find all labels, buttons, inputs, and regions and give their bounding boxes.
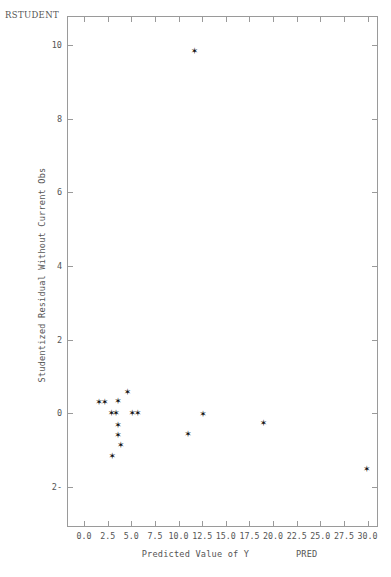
y-axis-tick-right xyxy=(372,266,378,267)
x-axis-tick-top xyxy=(202,16,203,22)
y-axis-tick-left xyxy=(67,192,73,193)
x-axis-tick-bottom xyxy=(226,521,227,527)
x-axis-tick-label: 20.0 xyxy=(263,531,283,541)
y-axis-tick-right xyxy=(372,119,378,120)
x-axis-tick-top xyxy=(108,16,109,22)
x-axis-tick-top xyxy=(155,16,156,22)
y-axis-tick-right xyxy=(372,413,378,414)
data-point-marker: ✶ xyxy=(199,409,207,418)
x-axis-tick-bottom xyxy=(155,521,156,527)
data-point-marker: ✶ xyxy=(114,421,122,430)
x-axis-tick-label: 2.5 xyxy=(100,531,115,541)
x-axis-tick-top xyxy=(84,16,85,22)
data-point-marker: ✶ xyxy=(114,396,122,405)
x-axis-tick-top xyxy=(131,16,132,22)
y-axis-tick-right xyxy=(372,340,378,341)
y-axis-tick-left xyxy=(67,413,73,414)
x-axis-variable-label: PRED xyxy=(296,549,318,559)
x-axis-tick-label: 27.5 xyxy=(334,531,354,541)
x-axis-tick-label: 7.5 xyxy=(147,531,162,541)
x-axis-tick-bottom xyxy=(368,521,369,527)
y-axis-tick-left xyxy=(67,119,73,120)
x-axis-tick-label: 5.0 xyxy=(124,531,139,541)
data-point-marker: ✶ xyxy=(124,387,132,396)
y-axis-tick-left xyxy=(67,487,73,488)
data-point-marker: ✶ xyxy=(109,452,117,461)
x-axis-tick-bottom xyxy=(202,521,203,527)
data-point-marker: ✶ xyxy=(117,440,125,449)
x-axis-tick-bottom xyxy=(344,521,345,527)
x-axis-tick-label: 22.5 xyxy=(287,531,307,541)
y-axis-tick-right xyxy=(372,45,378,46)
x-axis-tick-top xyxy=(226,16,227,22)
x-axis-tick-bottom xyxy=(108,521,109,527)
y-axis-tick-right xyxy=(372,487,378,488)
response-variable-label: RSTUDENT xyxy=(5,10,59,20)
x-axis-title: Predicted Value of Y xyxy=(0,549,391,559)
scatter-plot-root: RSTUDENT 0.02.55.07.510.012.515.017.520.… xyxy=(0,0,391,577)
y-axis-tick-left xyxy=(67,45,73,46)
x-axis-tick-bottom xyxy=(297,521,298,527)
x-axis-tick-top xyxy=(179,16,180,22)
data-point-marker: ✶ xyxy=(184,429,192,438)
x-axis-tick-label: 30.0 xyxy=(358,531,378,541)
data-point-marker: ✶ xyxy=(134,409,142,418)
y-axis-title: Studentized Residual Without Current Obs xyxy=(37,125,47,425)
x-axis-tick-label: 0.0 xyxy=(77,531,92,541)
x-axis-tick-bottom xyxy=(84,521,85,527)
x-axis-tick-label: 12.5 xyxy=(192,531,212,541)
x-axis-tick-bottom xyxy=(273,521,274,527)
x-axis-tick-top xyxy=(249,16,250,22)
x-axis-tick-top xyxy=(320,16,321,22)
x-axis-tick-label: 17.5 xyxy=(239,531,259,541)
data-point-marker: ✶ xyxy=(363,464,371,473)
data-point-marker: ✶ xyxy=(101,398,109,407)
x-axis-tick-bottom xyxy=(131,521,132,527)
x-axis-tick-top xyxy=(273,16,274,22)
x-axis-tick-bottom xyxy=(249,521,250,527)
x-axis-tick-top xyxy=(297,16,298,22)
x-axis-tick-top xyxy=(344,16,345,22)
y-axis-tick-right xyxy=(372,192,378,193)
data-point-marker: ✶ xyxy=(260,418,268,427)
x-axis-tick-label: 15.0 xyxy=(216,531,236,541)
x-axis-tick-top xyxy=(368,16,369,22)
x-axis-tick-bottom xyxy=(320,521,321,527)
data-point-marker: ✶ xyxy=(191,46,199,55)
data-point-marker: ✶ xyxy=(112,409,120,418)
x-axis-tick-bottom xyxy=(179,521,180,527)
y-axis-tick-left xyxy=(67,266,73,267)
x-axis-tick-label: 25.0 xyxy=(310,531,330,541)
x-axis-tick-label: 10.0 xyxy=(169,531,189,541)
y-axis-tick-left xyxy=(67,340,73,341)
